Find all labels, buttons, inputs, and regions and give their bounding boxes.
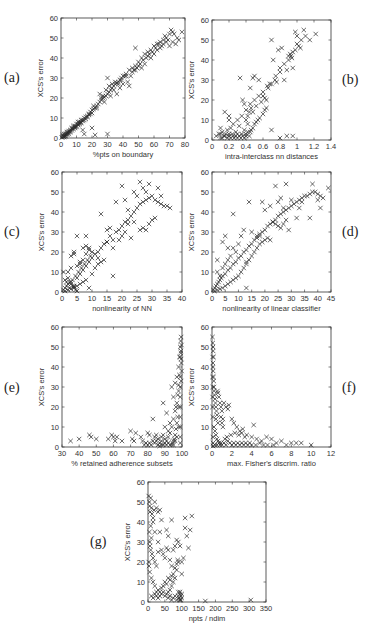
data-point-x-marker xyxy=(176,415,180,419)
data-point-x-marker xyxy=(279,212,283,216)
data-point-x-marker xyxy=(227,403,231,407)
x-tick-label: 60 xyxy=(109,449,117,458)
data-point-x-marker xyxy=(138,202,142,206)
data-point-x-marker xyxy=(211,361,215,365)
data-point-x-marker xyxy=(150,194,154,198)
data-point-x-marker xyxy=(147,564,151,568)
panel-label: (e) xyxy=(4,380,20,396)
data-point-x-marker xyxy=(223,234,227,238)
y-tick-label: 60 xyxy=(137,478,145,487)
data-point-x-marker xyxy=(84,278,88,282)
panel-label: (c) xyxy=(4,224,20,240)
data-point-x-marker xyxy=(210,375,214,379)
y-tick-label: 40 xyxy=(201,363,209,372)
data-point-x-marker xyxy=(94,437,98,441)
x-tick-label: 40 xyxy=(178,294,186,303)
data-point-x-marker xyxy=(326,186,330,190)
data-point-x-marker xyxy=(132,190,136,194)
data-point-x-marker xyxy=(123,220,127,224)
y-axis-label: XCS's error xyxy=(187,60,196,99)
x-tick-label: 2 xyxy=(230,449,234,458)
data-point-x-marker xyxy=(153,216,157,220)
y-tick-label: 40 xyxy=(50,54,58,63)
data-point-x-marker xyxy=(153,560,157,564)
data-point-x-marker xyxy=(268,204,272,208)
data-point-x-marker xyxy=(249,106,253,110)
data-point-x-marker xyxy=(127,84,131,88)
data-point-x-marker xyxy=(248,86,252,90)
data-point-x-marker xyxy=(186,546,190,550)
data-point-x-marker xyxy=(215,413,219,417)
data-point-x-marker xyxy=(260,230,264,234)
data-point-x-marker xyxy=(129,236,133,240)
data-point-x-marker xyxy=(78,282,82,286)
x-tick-label: 0.6 xyxy=(258,142,268,151)
data-point-x-marker xyxy=(161,401,165,405)
x-tick-label: 100 xyxy=(175,604,188,613)
data-point-x-marker xyxy=(149,576,153,580)
y-axis-label: XCS's error xyxy=(37,212,46,251)
x-tick-label: 4 xyxy=(250,449,254,458)
data-point-x-marker xyxy=(261,90,265,94)
y-tick-label: 20 xyxy=(201,96,209,105)
data-point-x-marker xyxy=(143,62,147,66)
data-point-x-marker xyxy=(170,425,174,429)
data-point-x-marker xyxy=(231,122,235,126)
data-points xyxy=(146,494,253,603)
data-point-x-marker xyxy=(240,98,244,102)
data-point-x-marker xyxy=(282,62,286,66)
data-points xyxy=(61,180,172,293)
data-point-x-marker xyxy=(166,534,170,538)
x-tick-label: 90 xyxy=(161,449,169,458)
data-point-x-marker xyxy=(169,518,173,522)
data-point-x-marker xyxy=(153,46,157,50)
data-point-x-marker xyxy=(314,32,318,36)
y-tick-label: 0 xyxy=(54,134,58,143)
x-tick-label: 40 xyxy=(314,294,322,303)
data-point-x-marker xyxy=(99,260,103,264)
data-point-x-marker xyxy=(99,212,103,216)
data-point-x-marker xyxy=(219,415,223,419)
y-tick-label: 60 xyxy=(51,168,59,177)
data-point-x-marker xyxy=(223,284,227,288)
data-points xyxy=(211,182,330,293)
data-point-x-marker xyxy=(300,200,304,204)
data-point-x-marker xyxy=(251,423,255,427)
data-point-x-marker xyxy=(274,80,278,84)
data-point-x-marker xyxy=(276,224,280,228)
data-point-x-marker xyxy=(271,220,275,224)
data-point-x-marker xyxy=(237,124,241,128)
data-point-x-marker xyxy=(278,66,282,70)
data-point-x-marker xyxy=(117,238,121,242)
y-tick-label: 30 xyxy=(51,383,59,392)
data-point-x-marker xyxy=(96,256,100,260)
data-point-x-marker xyxy=(158,444,162,448)
data-point-x-marker xyxy=(255,246,259,250)
data-point-x-marker xyxy=(228,266,232,270)
x-tick-label: 200 xyxy=(209,604,222,613)
panel-label: (g) xyxy=(90,534,107,550)
data-point-x-marker xyxy=(114,200,118,204)
data-point-x-marker xyxy=(271,443,275,447)
y-tick-label: 30 xyxy=(137,538,145,547)
data-point-x-marker xyxy=(128,429,132,433)
data-point-x-marker xyxy=(123,230,127,234)
data-point-x-marker xyxy=(171,417,175,421)
data-point-x-marker xyxy=(148,548,152,552)
y-tick-label: 40 xyxy=(201,208,209,217)
data-point-x-marker xyxy=(239,234,243,238)
data-point-x-marker xyxy=(87,260,91,264)
x-tick-label: 350 xyxy=(260,604,273,613)
data-points xyxy=(60,28,185,140)
data-point-x-marker xyxy=(168,421,172,425)
data-point-x-marker xyxy=(220,421,224,425)
data-point-x-marker xyxy=(293,48,297,52)
data-point-x-marker xyxy=(120,184,124,188)
x-tick-label: 50 xyxy=(92,449,100,458)
data-point-x-marker xyxy=(185,534,189,538)
panel-label: (f) xyxy=(342,380,356,396)
x-tick-label: 0 xyxy=(146,604,150,613)
y-tick-label: 30 xyxy=(51,228,59,237)
data-point-x-marker xyxy=(308,192,312,196)
data-point-x-marker xyxy=(223,272,227,276)
